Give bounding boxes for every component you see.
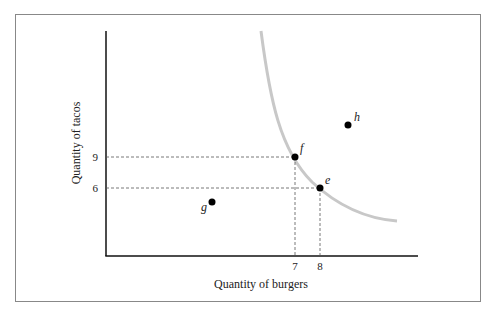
label-g: g — [201, 200, 207, 214]
chart: f e g h 9 6 7 8 Quantity of burgers Quan… — [0, 0, 495, 314]
point-e — [317, 185, 324, 192]
label-e: e — [325, 173, 331, 187]
point-f — [292, 154, 299, 161]
tick-y6: 6 — [93, 182, 99, 194]
tick-y9: 9 — [93, 151, 99, 163]
y-axis-title: Quantity of tacos — [69, 101, 83, 184]
tick-x7: 7 — [292, 260, 298, 272]
point-h — [345, 122, 352, 129]
label-h: h — [354, 110, 360, 124]
x-axis-title: Quantity of burgers — [214, 277, 308, 291]
chart-frame — [16, 15, 481, 302]
point-g — [209, 199, 216, 206]
tick-x8: 8 — [317, 260, 323, 272]
